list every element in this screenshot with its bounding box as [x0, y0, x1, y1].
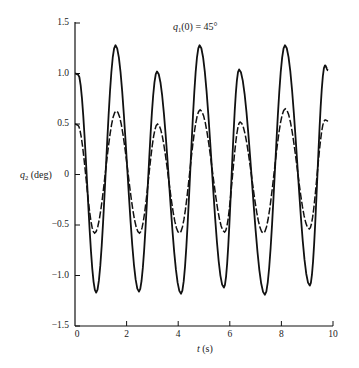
annotation-rest: (0) = 45° — [181, 21, 217, 32]
y-tick-label: −1.0 — [39, 271, 69, 281]
ylabel-rest: (deg) — [28, 169, 52, 180]
x-axis-label: t (s) — [197, 344, 213, 354]
x-tick-label: 2 — [117, 330, 137, 340]
y-tick-label: 1.5 — [39, 18, 69, 28]
y-tick-label: 1.0 — [39, 69, 69, 79]
annotation-initial-condition: q1(0) = 45° — [173, 22, 218, 32]
x-tick-label: 10 — [323, 330, 343, 340]
x-tick-label: 0 — [67, 330, 87, 340]
x-tick-label: 8 — [271, 330, 291, 340]
y-axis-label: q2 (deg) — [20, 170, 52, 180]
curves — [75, 45, 328, 294]
xlabel-rest: (s) — [200, 343, 213, 354]
x-tick-label: 6 — [220, 330, 240, 340]
y-tick-label: −0.5 — [39, 220, 69, 230]
y-tick-label: 0.5 — [39, 119, 69, 129]
chart-plot-area — [0, 0, 359, 368]
solid-series-line — [75, 45, 328, 294]
x-tick-label: 4 — [168, 330, 188, 340]
y-tick-label: −1.5 — [39, 321, 69, 331]
dashed-series-line — [75, 109, 328, 233]
